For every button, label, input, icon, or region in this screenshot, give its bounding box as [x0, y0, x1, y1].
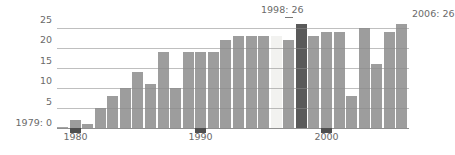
- bar-1984[interactable]: [120, 88, 131, 128]
- bar-1986[interactable]: [145, 84, 156, 128]
- y-axis-tick-5: 5: [0, 97, 52, 107]
- x-axis-label-1980: 1980: [46, 131, 106, 142]
- bar-2006[interactable]: [396, 24, 407, 128]
- bar-1989[interactable]: [183, 52, 194, 128]
- annotation-leader-line: [285, 17, 293, 18]
- y-axis-tick-label: 25: [40, 14, 52, 25]
- x-axis-label-text: 1980: [63, 131, 87, 142]
- bar-2004[interactable]: [371, 64, 382, 128]
- bar-1992[interactable]: [220, 40, 231, 128]
- bar-1993[interactable]: [233, 36, 244, 128]
- gridline-25: [57, 28, 409, 29]
- x-axis-label-text: 1990: [188, 131, 212, 142]
- y-axis-tick-label: 10: [40, 75, 52, 86]
- bar-1996[interactable]: [271, 36, 282, 128]
- y-axis-tick-15: 15: [0, 56, 52, 66]
- x-axis-label-2000: 2000: [297, 131, 357, 142]
- y-axis-tick-0: 1979: 0: [0, 118, 52, 128]
- bar-2003[interactable]: [359, 28, 370, 128]
- axis-baseline: [57, 128, 409, 129]
- bar-1998[interactable]: [296, 24, 307, 128]
- bar-1990[interactable]: [195, 52, 206, 128]
- bar-1982[interactable]: [95, 108, 106, 128]
- bar-1997[interactable]: [283, 40, 294, 128]
- y-axis-tick-10: 10: [0, 76, 52, 86]
- bar-1988[interactable]: [170, 88, 181, 128]
- y-axis-tick-25: 25: [0, 15, 52, 25]
- y-axis-tick-label: 20: [40, 34, 52, 45]
- y-axis-tick-label: 5: [46, 96, 52, 107]
- plot-area: [57, 20, 409, 128]
- bar-2001[interactable]: [334, 32, 345, 128]
- bar-1994[interactable]: [246, 36, 257, 128]
- bar-1987[interactable]: [158, 52, 169, 128]
- bar-2005[interactable]: [384, 32, 395, 128]
- bar-1980[interactable]: [70, 120, 81, 128]
- y-axis-tick-20: 20: [0, 35, 52, 45]
- annotation-1998: 1998: 26: [261, 4, 304, 15]
- y-axis-tick-label: 15: [40, 55, 52, 66]
- x-axis-label-1990: 1990: [171, 131, 231, 142]
- bar-2000[interactable]: [321, 32, 332, 128]
- bar-1999[interactable]: [308, 36, 319, 128]
- bar-1991[interactable]: [208, 52, 219, 128]
- annotation-text: 2006: 26: [412, 8, 455, 19]
- annotation-2006: 2006: 26: [412, 8, 455, 19]
- bar-1985[interactable]: [132, 72, 143, 128]
- annotation-text: 1998: 26: [261, 4, 304, 15]
- y-axis-origin-label: 1979: 0: [16, 117, 52, 128]
- bar-2002[interactable]: [346, 96, 357, 128]
- bar-1995[interactable]: [258, 36, 269, 128]
- x-axis-label-text: 2000: [314, 131, 338, 142]
- bar-1983[interactable]: [107, 96, 118, 128]
